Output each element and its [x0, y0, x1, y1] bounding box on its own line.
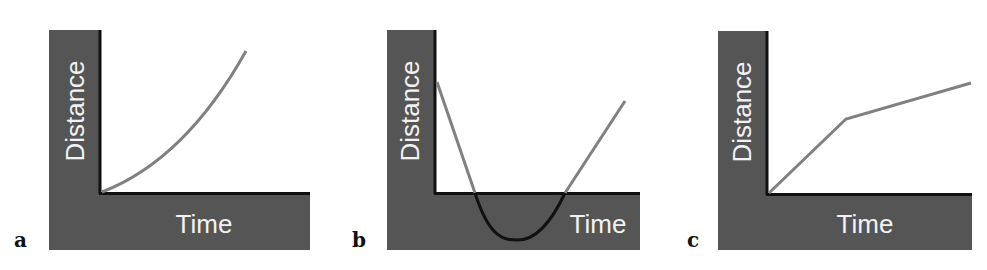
- panel-a-ylabel: Distance: [60, 60, 90, 161]
- panel-c: Distance Time c: [687, 31, 972, 252]
- panel-a-letter: a: [14, 228, 27, 252]
- panel-b-line-upper-left: [437, 82, 475, 193]
- panel-a-curve: [102, 51, 246, 192]
- figure: Distance Time a Distance Time b Distance…: [0, 0, 987, 270]
- panel-b-line-upper-right: [565, 101, 625, 193]
- panel-b-ylabel: Distance: [395, 60, 425, 161]
- panel-a-xlabel: Time: [176, 209, 233, 239]
- panel-b: Distance Time b: [352, 30, 640, 252]
- panel-c-ylabel: Distance: [727, 61, 757, 162]
- panel-c-xlabel: Time: [837, 209, 894, 239]
- panel-c-line: [769, 83, 971, 193]
- panel-b-xlabel: Time: [570, 209, 627, 239]
- panel-c-letter: c: [687, 228, 699, 252]
- panel-a: Distance Time a: [14, 30, 310, 252]
- panel-b-letter: b: [352, 228, 366, 252]
